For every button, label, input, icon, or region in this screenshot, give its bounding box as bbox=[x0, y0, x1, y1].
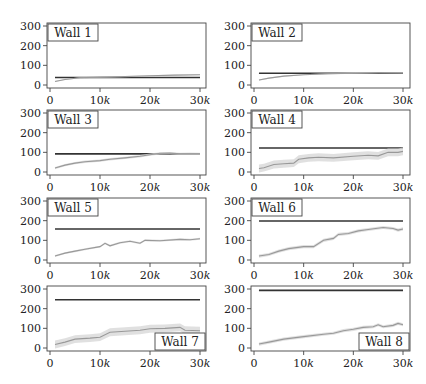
panel-wall-2: 0100200300010k20k30kWall 2 bbox=[224, 20, 414, 107]
y-tick-label: 0 bbox=[34, 166, 41, 179]
y-tick-label: 200 bbox=[224, 40, 245, 53]
y-tick-label: 100 bbox=[20, 322, 41, 335]
y-tick-label: 200 bbox=[20, 215, 41, 228]
x-tick-label: 30k bbox=[190, 181, 211, 194]
x-tick-label: 0 bbox=[251, 269, 258, 282]
x-tick-label: 10k bbox=[90, 269, 111, 282]
panel-label: Wall 7 bbox=[161, 335, 199, 349]
learning-line bbox=[55, 153, 200, 168]
x-tick-label: 20k bbox=[140, 269, 161, 282]
y-tick-label: 100 bbox=[20, 234, 41, 247]
x-tick-label: 20k bbox=[343, 181, 364, 194]
y-tick-label: 0 bbox=[238, 79, 245, 92]
panel-label: Wall 4 bbox=[258, 113, 296, 127]
panel-wall-3: 0100200300010k20k30kWall 3 bbox=[20, 107, 211, 194]
panel-label: Wall 3 bbox=[54, 113, 92, 127]
y-tick-label: 100 bbox=[20, 146, 41, 159]
panel-wall-6: 0100200300010k20k30kWall 6 bbox=[224, 195, 414, 282]
x-tick-label: 20k bbox=[140, 94, 161, 107]
y-tick-label: 0 bbox=[238, 342, 245, 355]
y-tick-label: 300 bbox=[224, 20, 245, 33]
y-tick-label: 300 bbox=[20, 107, 41, 120]
x-tick-label: 10k bbox=[293, 357, 314, 370]
panel-label: Wall 5 bbox=[54, 201, 92, 215]
y-tick-label: 0 bbox=[238, 166, 245, 179]
x-tick-label: 10k bbox=[90, 181, 111, 194]
confidence-band bbox=[259, 226, 403, 258]
panel-wall-4: 0100200300010k20k30kWall 4 bbox=[224, 107, 414, 194]
x-tick-label: 30k bbox=[393, 181, 414, 194]
y-tick-label: 200 bbox=[20, 40, 41, 53]
learning-line bbox=[55, 239, 200, 256]
x-tick-label: 30k bbox=[190, 94, 211, 107]
x-tick-label: 30k bbox=[190, 269, 211, 282]
panel-label: Wall 6 bbox=[258, 201, 296, 215]
y-tick-label: 100 bbox=[20, 59, 41, 72]
y-tick-label: 200 bbox=[20, 127, 41, 140]
x-tick-label: 20k bbox=[140, 181, 161, 194]
x-tick-label: 10k bbox=[293, 269, 314, 282]
y-tick-label: 100 bbox=[224, 146, 245, 159]
y-tick-label: 200 bbox=[20, 303, 41, 316]
x-tick-label: 0 bbox=[47, 181, 54, 194]
x-tick-label: 0 bbox=[251, 357, 258, 370]
confidence-band bbox=[259, 147, 403, 172]
confidence-band bbox=[55, 238, 200, 257]
x-tick-label: 30k bbox=[393, 94, 414, 107]
x-tick-label: 30k bbox=[393, 357, 414, 370]
x-tick-label: 20k bbox=[343, 94, 364, 107]
x-tick-label: 20k bbox=[140, 357, 161, 370]
panel-wall-5: 0100200300010k20k30kWall 5 bbox=[20, 195, 211, 282]
wall-chart-grid: 0100200300010k20k30kWall 10100200300010k… bbox=[0, 0, 426, 384]
y-tick-label: 100 bbox=[224, 234, 245, 247]
x-tick-label: 10k bbox=[90, 357, 111, 370]
y-tick-label: 300 bbox=[20, 283, 41, 296]
y-tick-label: 300 bbox=[20, 20, 41, 33]
x-tick-label: 0 bbox=[47, 357, 54, 370]
y-tick-label: 300 bbox=[224, 283, 245, 296]
y-tick-label: 300 bbox=[224, 107, 245, 120]
panel-wall-1: 0100200300010k20k30kWall 1 bbox=[20, 20, 211, 107]
y-tick-label: 0 bbox=[34, 254, 41, 267]
x-tick-label: 0 bbox=[251, 94, 258, 107]
panel-label: Wall 1 bbox=[54, 26, 92, 40]
x-tick-label: 10k bbox=[293, 94, 314, 107]
y-tick-label: 200 bbox=[224, 303, 245, 316]
x-tick-label: 20k bbox=[343, 269, 364, 282]
y-tick-label: 200 bbox=[224, 127, 245, 140]
x-tick-label: 0 bbox=[251, 181, 258, 194]
x-tick-label: 30k bbox=[393, 269, 414, 282]
x-tick-label: 20k bbox=[343, 357, 364, 370]
panel-wall-8: 0100200300010k20k30kWall 8 bbox=[224, 283, 414, 370]
panel-label: Wall 8 bbox=[365, 335, 403, 349]
y-tick-label: 0 bbox=[34, 79, 41, 92]
y-tick-label: 100 bbox=[224, 59, 245, 72]
x-tick-label: 0 bbox=[47, 269, 54, 282]
y-tick-label: 0 bbox=[34, 342, 41, 355]
x-tick-label: 0 bbox=[47, 94, 54, 107]
y-tick-label: 300 bbox=[20, 195, 41, 208]
x-tick-label: 10k bbox=[90, 94, 111, 107]
x-tick-label: 10k bbox=[293, 181, 314, 194]
panel-label: Wall 2 bbox=[258, 26, 296, 40]
y-tick-label: 200 bbox=[224, 215, 245, 228]
y-tick-label: 100 bbox=[224, 322, 245, 335]
panel-wall-7: 0100200300010k20k30kWall 7 bbox=[20, 283, 211, 370]
y-tick-label: 0 bbox=[238, 254, 245, 267]
x-tick-label: 30k bbox=[190, 357, 211, 370]
y-tick-label: 300 bbox=[224, 195, 245, 208]
